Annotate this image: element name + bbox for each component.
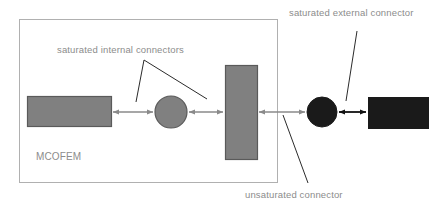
leader-line-external [346, 31, 357, 101]
component-tall-rect [226, 66, 258, 160]
connector-diagram: MCOFEM saturated internal connectors sat… [0, 0, 441, 207]
component-left-rect [28, 97, 112, 127]
diagram-canvas: MCOFEM saturated internal connectors sat… [0, 0, 441, 207]
label-unsaturated-connector: unsaturated connector [245, 189, 343, 200]
label-system-name: MCOFEM [36, 151, 81, 162]
leader-line-unsaturated [283, 115, 308, 183]
leader-line-internal-right [144, 60, 207, 99]
component-black-rect [369, 98, 429, 129]
component-black-circle [307, 97, 337, 127]
label-saturated-internal-connectors: saturated internal connectors [57, 44, 184, 55]
leader-line-internal-left [136, 60, 144, 102]
component-gray-circle [155, 96, 187, 128]
label-saturated-external-connector: saturated external connector [289, 7, 414, 18]
